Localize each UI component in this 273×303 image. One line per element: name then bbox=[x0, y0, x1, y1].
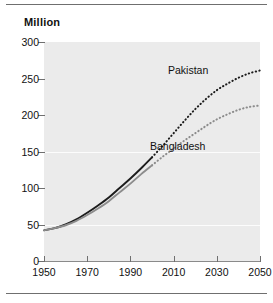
chart-figure: Million 300250200150100500 1950197019902… bbox=[0, 0, 273, 303]
series-line-bangladesh-historical bbox=[44, 165, 152, 230]
series-label-bangladesh: Bangladesh bbox=[150, 140, 205, 152]
series-line-bangladesh-projection bbox=[152, 106, 260, 166]
series-curves bbox=[0, 0, 273, 303]
series-label-pakistan: Pakistan bbox=[168, 64, 208, 76]
series-line-pakistan-historical bbox=[44, 157, 152, 230]
